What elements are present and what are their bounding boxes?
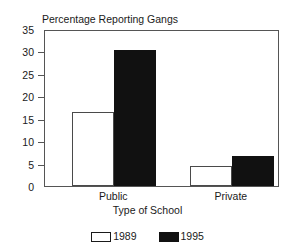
legend-entry-1989: 1989 (91, 231, 136, 242)
chart-legend: 19891995 (0, 231, 295, 242)
y-axis-tick-label: 10 (6, 137, 34, 147)
bar-private-1995 (232, 156, 274, 187)
y-axis-tick-label: 35 (6, 25, 34, 35)
x-axis-title: Type of School (0, 204, 295, 216)
bar-public-1989 (72, 112, 114, 186)
y-axis-tick-label: 15 (6, 115, 34, 125)
plot-area (44, 30, 279, 187)
y-axis-tick-label: 0 (6, 182, 34, 192)
legend-label: 1989 (113, 231, 136, 242)
y-axis-tick-label: 25 (6, 70, 34, 80)
y-axis-tick-label: 5 (6, 160, 34, 170)
legend-entry-1995: 1995 (159, 231, 204, 242)
legend-swatch-1995 (159, 232, 179, 242)
x-axis-label-private: Private (191, 190, 271, 202)
y-axis-tick-label: 30 (6, 47, 34, 57)
y-axis-tick-label: 20 (6, 92, 34, 102)
bar-chart-figure: Percentage Reporting Gangs 0510152025303… (0, 0, 295, 252)
legend-label: 1995 (181, 231, 204, 242)
bar-private-1989 (190, 166, 232, 186)
legend-swatch-1989 (91, 232, 111, 242)
bar-public-1995 (114, 50, 156, 186)
x-axis-label-public: Public (73, 190, 153, 202)
chart-title: Percentage Reporting Gangs (42, 13, 178, 25)
